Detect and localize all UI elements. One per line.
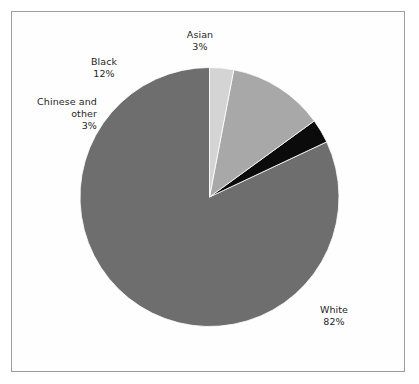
slice-label-chinese-and-other-name: Chinese and other: [27, 96, 97, 120]
slice-label-white: White 82%: [304, 304, 364, 328]
slice-label-chinese-and-other-value: 3%: [27, 120, 97, 132]
slice-label-white-name: White: [304, 304, 364, 316]
slice-label-black-name: Black: [72, 56, 136, 68]
slice-label-chinese-and-other: Chinese and other 3%: [27, 96, 97, 132]
slice-label-white-value: 82%: [304, 316, 364, 328]
pie-slice-group: [80, 68, 339, 327]
slice-label-black-value: 12%: [72, 68, 136, 80]
slice-label-black: Black 12%: [72, 56, 136, 80]
pie-chart-figure: Asian 3% Black 12% Chinese and other 3% …: [0, 0, 419, 384]
slice-label-asian-value: 3%: [168, 41, 232, 53]
slice-label-asian: Asian 3%: [168, 29, 232, 53]
slice-label-asian-name: Asian: [168, 29, 232, 41]
